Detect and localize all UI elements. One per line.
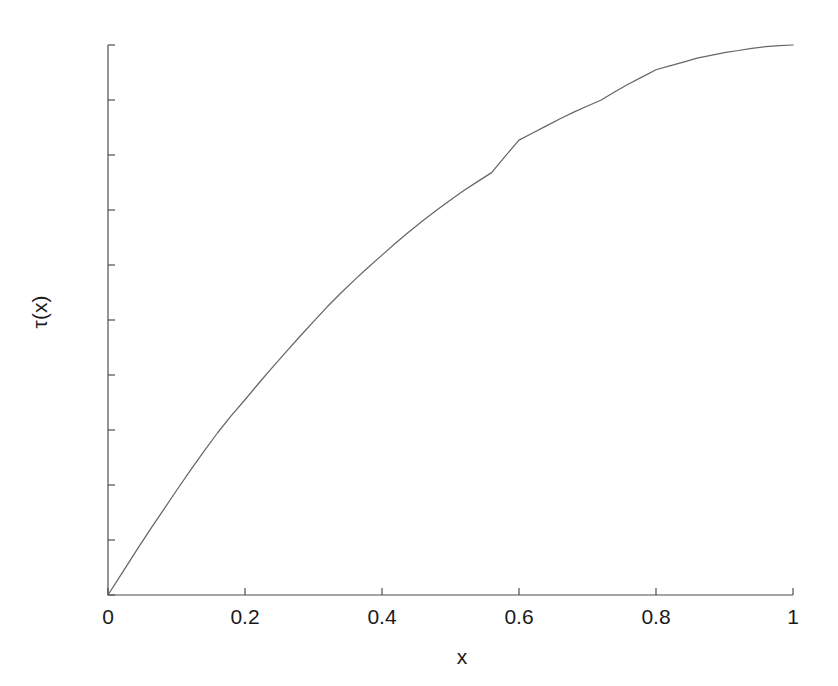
figure-canvas: 00.10.20.30.40.50.60.70.80.91 00.20.40.6… [0, 0, 838, 686]
x-tick-label: 0.4 [367, 606, 396, 627]
y-axis-label: τ(x) [28, 252, 52, 372]
plot-svg [0, 0, 838, 686]
tau-curve [108, 45, 793, 595]
x-tick-label: 0 [102, 606, 114, 627]
x-axis-label-text: x [457, 645, 468, 668]
x-axis-ticks [108, 588, 793, 595]
x-tick-label: 0.2 [230, 606, 259, 627]
x-axis-tick-labels: 00.20.40.60.81 [0, 606, 838, 636]
x-tick-label: 0.8 [641, 606, 670, 627]
x-tick-label: 0.6 [504, 606, 533, 627]
x-axis-label: x [0, 645, 838, 669]
x-tick-label: 1 [787, 606, 799, 627]
y-axis-ticks [108, 45, 115, 595]
